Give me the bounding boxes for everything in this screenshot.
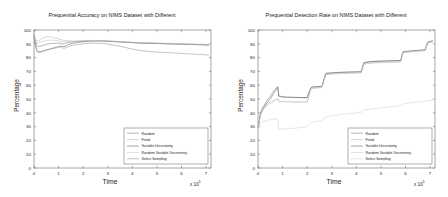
svg-text:30: 30 xyxy=(26,124,31,129)
svg-text:6: 6 xyxy=(180,171,183,176)
svg-text:Variable Uncertainty: Variable Uncertainty xyxy=(142,144,174,148)
svg-text:100: 100 xyxy=(24,28,32,33)
svg-text:1: 1 xyxy=(57,171,60,176)
svg-text:40: 40 xyxy=(26,111,31,116)
svg-text:Random Variable Uncertainty: Random Variable Uncertainty xyxy=(142,151,188,155)
svg-text:60: 60 xyxy=(250,83,255,88)
svg-text:20: 20 xyxy=(26,138,31,143)
svg-text:6: 6 xyxy=(404,171,407,176)
svg-text:60: 60 xyxy=(26,83,31,88)
svg-text:7: 7 xyxy=(429,171,432,176)
svg-text:2: 2 xyxy=(82,171,85,176)
svg-text:80: 80 xyxy=(250,55,255,60)
svg-text:Fixed: Fixed xyxy=(366,138,375,142)
svg-text:40: 40 xyxy=(250,111,255,116)
plot-area-detection: 012345670102030405060708090100RandomFixe… xyxy=(224,0,448,197)
svg-text:Select Sampling: Select Sampling xyxy=(142,157,167,161)
svg-text:5: 5 xyxy=(380,171,383,176)
svg-text:3: 3 xyxy=(107,171,110,176)
svg-text:10: 10 xyxy=(250,152,255,157)
svg-text:50: 50 xyxy=(26,97,31,102)
svg-text:Random: Random xyxy=(142,132,155,136)
svg-text:Random Variable Uncertainty: Random Variable Uncertainty xyxy=(366,151,412,155)
svg-text:10: 10 xyxy=(26,152,31,157)
svg-text:Variable Uncertainty: Variable Uncertainty xyxy=(366,144,398,148)
svg-text:30: 30 xyxy=(250,124,255,129)
svg-text:70: 70 xyxy=(250,69,255,74)
chart-panel-accuracy: Prequential Accuracy on NIMS Dataset wit… xyxy=(0,0,224,197)
svg-text:1: 1 xyxy=(281,171,284,176)
svg-text:80: 80 xyxy=(26,55,31,60)
svg-text:90: 90 xyxy=(250,42,255,47)
chart-panel-detection: Prequential Detection Rate on NIMS Datas… xyxy=(224,0,448,197)
svg-text:70: 70 xyxy=(26,69,31,74)
svg-text:0: 0 xyxy=(33,171,36,176)
svg-text:Select Sampling: Select Sampling xyxy=(366,157,391,161)
svg-text:5: 5 xyxy=(156,171,159,176)
svg-text:Fixed: Fixed xyxy=(142,138,151,142)
svg-text:100: 100 xyxy=(248,28,256,33)
svg-text:3: 3 xyxy=(331,171,334,176)
svg-text:20: 20 xyxy=(250,138,255,143)
svg-text:7: 7 xyxy=(205,171,208,176)
svg-text:2: 2 xyxy=(306,171,309,176)
svg-text:Random: Random xyxy=(366,132,379,136)
figure-root: Prequential Accuracy on NIMS Dataset wit… xyxy=(0,0,448,197)
plot-area-accuracy: 012345670102030405060708090100RandomFixe… xyxy=(0,0,224,197)
svg-text:0: 0 xyxy=(257,171,260,176)
svg-text:50: 50 xyxy=(250,97,255,102)
svg-text:0: 0 xyxy=(253,166,256,171)
svg-text:90: 90 xyxy=(26,42,31,47)
svg-text:4: 4 xyxy=(355,171,358,176)
svg-text:4: 4 xyxy=(131,171,134,176)
svg-text:0: 0 xyxy=(29,166,32,171)
